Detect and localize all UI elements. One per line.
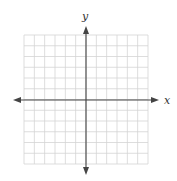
coordinate-plane: x y: [0, 0, 177, 181]
y-axis-bottom-arrow-icon: [83, 167, 89, 175]
x-axis-right-arrow-icon: [151, 97, 159, 103]
x-axis-label: x: [164, 94, 171, 107]
x-axis: x: [13, 94, 171, 107]
y-axis-top-arrow-icon: [83, 26, 89, 34]
x-axis-left-arrow-icon: [13, 97, 21, 103]
y-axis-label: y: [81, 10, 89, 23]
